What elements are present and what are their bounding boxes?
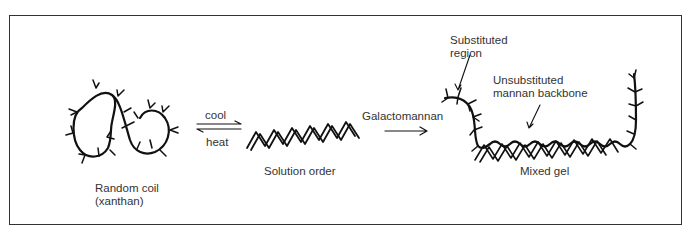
unsubstituted-backbone-label-2: mannan backbone: [493, 87, 588, 100]
double-helix-zigzag-icon: [247, 122, 359, 150]
cool-label: cool: [205, 109, 226, 122]
mixed-gel-label: Mixed gel: [520, 165, 569, 178]
substituted-region-label-2: region: [450, 47, 482, 60]
heat-label: heat: [206, 136, 228, 149]
solution-order-label: Solution order: [264, 165, 336, 178]
galactomannan-label: Galactomannan: [362, 110, 443, 123]
galactomannan-arrow-icon: [385, 127, 427, 135]
coil-side-chain-icons: [66, 80, 178, 163]
substituted-region-label: Substituted: [450, 34, 508, 47]
random-coil-label: Random coil: [95, 182, 159, 195]
random-coil-sublabel: (xanthan): [95, 195, 144, 208]
unsubstituted-backbone-label: Unsubstituted: [493, 74, 563, 87]
equilibrium-arrow-icon: [197, 121, 241, 132]
